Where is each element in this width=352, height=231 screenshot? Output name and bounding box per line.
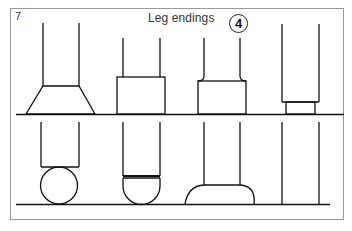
ball-foot xyxy=(41,122,80,204)
tapered-foot xyxy=(26,23,95,114)
dome-foot xyxy=(185,122,254,204)
bun-foot xyxy=(123,122,160,205)
leg-endings-drawing xyxy=(0,0,352,231)
recessed-plinth-foot xyxy=(282,24,319,114)
plain-leg xyxy=(282,122,319,204)
block-foot xyxy=(117,38,165,114)
flared-block-foot xyxy=(198,38,246,114)
